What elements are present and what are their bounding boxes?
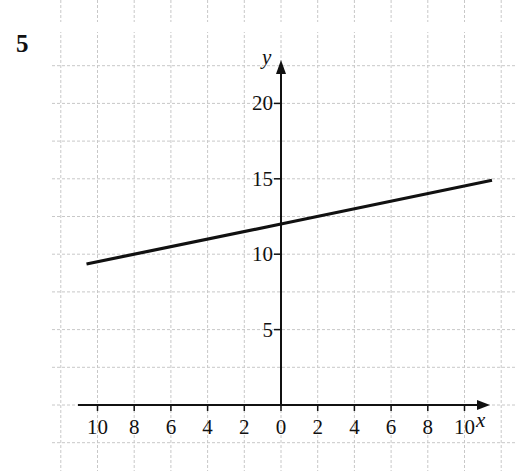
x-tick-label: 10	[454, 415, 475, 439]
x-tick-label: 8	[129, 415, 140, 439]
x-tick-label: 0	[276, 415, 287, 439]
x-tick-label: 2	[312, 415, 323, 439]
y-tick-label: 10	[252, 242, 273, 266]
data-series	[87, 180, 493, 264]
x-tick-label: 2	[239, 415, 250, 439]
x-axis-label: x	[475, 408, 486, 432]
y-tick-label: 20	[252, 91, 273, 115]
x-tick-label: 4	[202, 415, 213, 439]
x-tick-label: 10	[87, 415, 108, 439]
y-tick-label: 5	[263, 318, 274, 342]
y-axis-arrow-icon	[276, 60, 286, 74]
top-gap	[0, 22, 515, 32]
x-tick-label: 6	[166, 415, 177, 439]
x-tick-label: 4	[349, 415, 360, 439]
y-axis-label: y	[260, 45, 272, 69]
y-tick-label: 15	[252, 167, 273, 191]
x-tick-label: 8	[423, 415, 434, 439]
x-tick-label: 6	[386, 415, 397, 439]
data-line	[87, 180, 493, 264]
tick-labels: 10864202468105101520xy	[87, 45, 486, 439]
line-graph: 10864202468105101520xy	[0, 0, 515, 471]
grid-lines	[0, 0, 515, 471]
